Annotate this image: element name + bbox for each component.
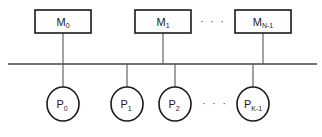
processor-0: P0 — [47, 87, 79, 121]
memory-1-label: M — [156, 16, 165, 28]
memory-n-1-subscript: N-1 — [262, 22, 273, 29]
memory-0-subscript: 0 — [66, 22, 70, 29]
processor-ellipsis: · · · — [202, 98, 228, 109]
processor-1: P1 — [111, 87, 143, 121]
processor-2: P2 — [159, 87, 191, 121]
memory-0-label: M — [56, 16, 65, 28]
processor-k-1: PK-1 — [237, 87, 269, 121]
memory-ellipsis: · · · — [200, 16, 226, 27]
memory-1-subscript: 1 — [166, 22, 170, 29]
processor-2-subscript: 2 — [176, 105, 180, 112]
processor-1-subscript: 1 — [128, 105, 132, 112]
processor-1-label: P — [120, 98, 127, 110]
bus-diagram: M0 M1 · · · MN-1 P0 P1 P2 · · · PK-1 — [0, 0, 322, 137]
memory-n-1-label: M — [253, 16, 262, 28]
processor-0-label: P — [56, 98, 63, 110]
memory-module-1: M1 — [135, 10, 191, 33]
memory-module-0: M0 — [35, 10, 91, 33]
memory-module-n-1: MN-1 — [235, 10, 291, 33]
processor-k-1-label: P — [244, 98, 251, 110]
processor-2-label: P — [168, 98, 175, 110]
processor-0-subscript: 0 — [64, 105, 68, 112]
processor-k-1-subscript: K-1 — [251, 105, 262, 112]
